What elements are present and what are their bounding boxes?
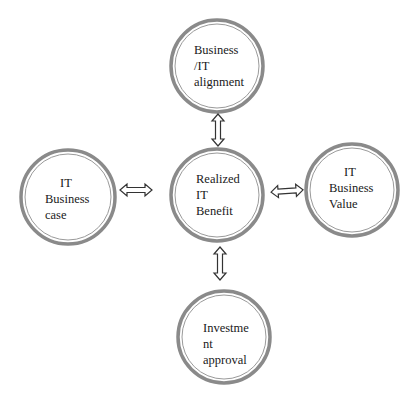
label-line: Benefit xyxy=(196,203,240,219)
label-it-business-case: IT Business case xyxy=(45,175,89,223)
label-line: Business xyxy=(329,180,373,196)
label-investment-approval: Investme nt approval xyxy=(203,320,249,368)
double-arrow-icon-top xyxy=(212,114,224,146)
label-business-it-alignment: Business /IT alignment xyxy=(194,42,244,90)
label-line: alignment xyxy=(194,74,244,90)
label-line: Investme xyxy=(203,320,249,336)
label-it-business-value: IT Business Value xyxy=(329,164,373,212)
label-line: nt xyxy=(203,336,249,352)
label-line: Value xyxy=(329,196,373,212)
label-line: approval xyxy=(203,352,249,368)
label-realized-it-benefit: Realized IT Benefit xyxy=(196,171,240,219)
label-line: Business xyxy=(194,42,244,58)
label-line: Realized xyxy=(196,171,240,187)
double-arrow-icon-left xyxy=(120,184,152,196)
label-line: case xyxy=(45,207,89,223)
label-line: IT xyxy=(196,187,240,203)
label-line: IT xyxy=(45,175,89,191)
double-arrow-icon-right xyxy=(271,184,304,198)
label-line: /IT xyxy=(194,58,244,74)
label-line: Business xyxy=(45,191,89,207)
double-arrow-icon-bottom xyxy=(214,247,226,280)
label-line: IT xyxy=(329,164,373,180)
